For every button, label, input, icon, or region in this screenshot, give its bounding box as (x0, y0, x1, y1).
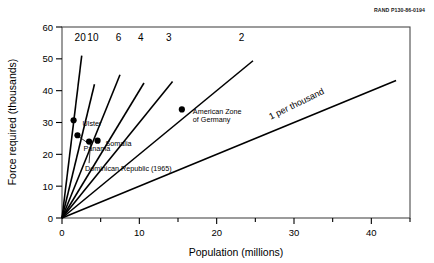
ratio-label-20: 20 (75, 32, 87, 43)
x-tick-label: 30 (289, 227, 300, 238)
point-label: Dominican Republic (1965) (85, 164, 172, 173)
y-tick-label: 60 (42, 22, 53, 33)
x-axis-title: Population (millions) (189, 246, 284, 258)
point-label-line2: of Germany (193, 115, 231, 124)
x-tick-label: 20 (211, 227, 222, 238)
x-tick-label: 10 (134, 227, 145, 238)
force-vs-population-chart: 0102030405060 010203040 201064321 per th… (0, 0, 434, 263)
y-axis-title: Force required (thousands) (6, 59, 18, 186)
ratio-label-10: 10 (87, 32, 99, 43)
y-tick-label: 30 (42, 117, 53, 128)
ratio-label-1-per-thousand: 1 per thousand (267, 86, 325, 121)
ratio-label-3: 3 (166, 32, 172, 43)
data-marker (94, 138, 100, 144)
data-marker (86, 139, 92, 145)
y-axis-ticks: 0102030405060 (42, 22, 62, 224)
ratio-ray-1-per-thousand (62, 80, 396, 218)
y-tick-label: 10 (42, 181, 53, 192)
data-marker (71, 117, 77, 123)
ratio-label-2: 2 (239, 32, 245, 43)
ratio-label-4: 4 (138, 32, 144, 43)
y-tick-label: 0 (48, 213, 53, 224)
y-tick-label: 20 (42, 149, 53, 160)
ratio-rays (62, 56, 396, 218)
x-tick-label: 40 (366, 227, 377, 238)
y-tick-label: 40 (42, 85, 53, 96)
point-label: Somalia (106, 139, 132, 148)
chart-page: RAND P130-86-0194 0102030405060 01020304… (0, 0, 434, 263)
y-tick-label: 50 (42, 53, 53, 64)
x-tick-label: 0 (59, 227, 64, 238)
ratio-label-6: 6 (116, 32, 122, 43)
plot-frame (62, 27, 410, 218)
x-axis-ticks: 010203040 (59, 218, 410, 238)
data-marker (179, 106, 185, 112)
point-label: Ulster (83, 119, 102, 128)
